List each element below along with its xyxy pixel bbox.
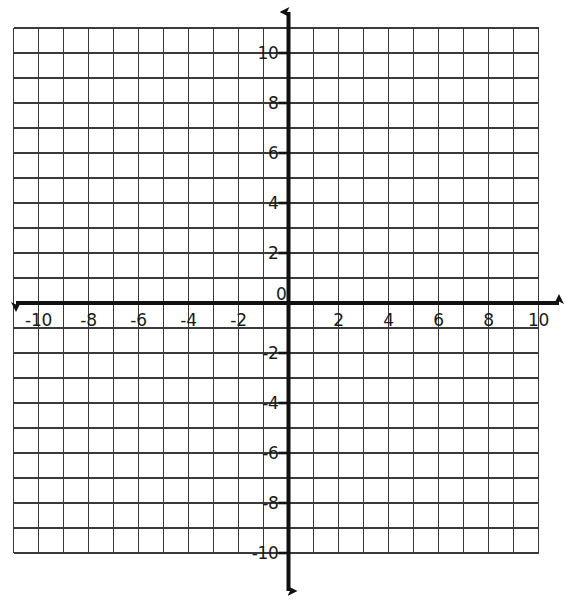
y-tick-label: 10 bbox=[251, 45, 279, 62]
x-tick-label: -10 bbox=[25, 312, 52, 329]
x-tick-label: -4 bbox=[180, 312, 196, 329]
x-tick-label: -2 bbox=[230, 312, 246, 329]
grid-and-axes-svg bbox=[0, 0, 575, 603]
y-tick-label: -6 bbox=[251, 445, 279, 462]
axes-lines bbox=[16, 12, 559, 591]
x-tick-label: 6 bbox=[433, 312, 444, 329]
y-tick-label: -2 bbox=[251, 345, 279, 362]
x-tick-label: 10 bbox=[528, 312, 549, 329]
y-tick-label: -4 bbox=[251, 395, 279, 412]
x-tick-label: -8 bbox=[80, 312, 96, 329]
origin-label: 0 bbox=[276, 286, 287, 303]
y-tick-label: 2 bbox=[251, 245, 279, 262]
y-tick-label: -10 bbox=[251, 545, 279, 562]
x-tick-label: -6 bbox=[130, 312, 146, 329]
x-tick-label: 8 bbox=[483, 312, 494, 329]
y-tick-label: -8 bbox=[251, 495, 279, 512]
x-tick-label: 4 bbox=[383, 312, 394, 329]
coordinate-plane-graph: -10-8-6-4-2246810 108642-2-4-6-8-10 0 bbox=[0, 0, 575, 603]
y-tick-label: 8 bbox=[251, 95, 279, 112]
x-tick-label: 2 bbox=[333, 312, 344, 329]
y-tick-label: 6 bbox=[251, 145, 279, 162]
y-tick-label: 4 bbox=[251, 195, 279, 212]
